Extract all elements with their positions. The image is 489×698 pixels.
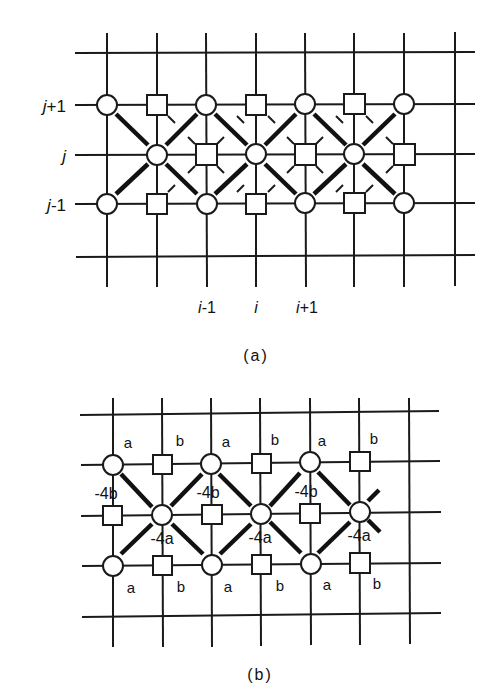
figure-a: j+1 j j-1 i-1 i i+1 (a)	[41, 32, 475, 364]
col-label-i: i	[254, 299, 258, 316]
square-node	[202, 505, 222, 524]
circle-node	[197, 194, 217, 214]
square-node	[300, 504, 320, 523]
circle-node	[202, 555, 222, 575]
coef-label: a	[224, 578, 233, 595]
square-node	[153, 455, 172, 474]
coef-label: b	[276, 577, 284, 594]
square-node	[147, 95, 167, 115]
coef-label-minus-4a: -4a	[347, 527, 370, 544]
circle-node	[295, 94, 315, 114]
circle-node	[152, 505, 172, 525]
square-node	[252, 555, 271, 574]
coef-label: a	[222, 433, 231, 450]
circle-node	[246, 144, 266, 164]
coef-label: a	[124, 434, 133, 451]
square-node	[295, 144, 316, 165]
figure-a-caption: (a)	[243, 347, 269, 364]
coef-label: b	[370, 430, 378, 447]
coef-label: b	[271, 431, 279, 448]
coef-label-minus-4b: -4b	[196, 484, 219, 501]
coef-label: a	[318, 432, 327, 449]
square-node	[147, 194, 167, 214]
coef-label: a	[127, 579, 136, 596]
square-node	[350, 452, 370, 471]
coef-label: b	[177, 578, 185, 595]
circle-node	[251, 504, 271, 524]
coef-label-minus-4a: -4a	[150, 530, 173, 547]
circle-node	[394, 94, 414, 114]
coef-label-minus-4a: -4a	[248, 529, 271, 546]
circle-node	[196, 95, 216, 115]
square-node	[344, 193, 365, 213]
circle-node	[300, 452, 320, 472]
figure-b-bottom-labels: a b a b a b	[127, 575, 381, 596]
circle-node	[201, 454, 221, 474]
circle-node	[97, 95, 117, 115]
square-node	[153, 556, 172, 575]
coef-label-minus-4b: -4b	[94, 485, 117, 502]
circle-node	[103, 556, 123, 576]
coef-label: b	[176, 432, 184, 449]
row-label-j-minus-1: j-1	[45, 196, 66, 215]
square-node	[350, 553, 370, 573]
square-node	[246, 95, 266, 115]
circle-node	[295, 193, 315, 213]
circle-node	[147, 145, 167, 165]
coef-label: a	[323, 576, 332, 593]
coef-label: b	[373, 575, 381, 592]
circle-node	[97, 194, 117, 214]
square-node	[103, 506, 122, 525]
circle-node	[344, 144, 364, 164]
circle-node	[103, 455, 123, 475]
col-label-i-minus-1: i-1	[198, 299, 216, 316]
row-label-j: j	[60, 147, 67, 166]
square-node	[252, 454, 271, 473]
square-node	[196, 144, 217, 165]
coef-label-minus-4b: -4b	[294, 483, 317, 500]
square-node	[394, 144, 415, 165]
row-label-j-plus-1: j+1	[41, 97, 66, 116]
stencil-diagram: j+1 j j-1 i-1 i i+1 (a)	[0, 0, 489, 698]
figure-b: a b a b a b -4b -4b -4b -4a -4a -4a a b …	[80, 398, 441, 683]
circle-node	[394, 193, 414, 213]
square-node	[344, 94, 365, 114]
square-node	[246, 194, 266, 214]
figure-b-caption: (b)	[247, 666, 273, 683]
col-label-i-plus-1: i+1	[296, 299, 318, 316]
circle-node	[350, 502, 370, 522]
circle-node	[301, 554, 321, 574]
